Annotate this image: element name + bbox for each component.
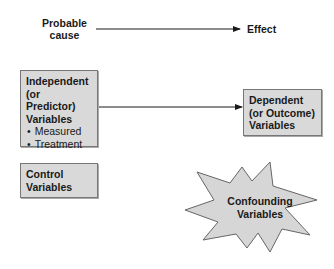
confounding-variables-label: Confounding Variables [215, 195, 305, 220]
bullet-treatment: Treatment [26, 138, 92, 151]
control-title-1: Control [26, 168, 92, 181]
control-title-2: Variables [26, 181, 92, 194]
independent-variables-box: Independent (or Predictor) Variables Mea… [20, 70, 98, 147]
probable-cause-label: Probable cause [42, 17, 87, 41]
dependent-variables-box: Dependent (or Outcome) Variables [243, 89, 322, 136]
dependent-title-2: (or Outcome) [249, 107, 316, 120]
confounding-title-1: Confounding [215, 195, 305, 208]
cause-line-1: Probable [42, 17, 87, 29]
bullet-measured: Measured [26, 125, 92, 138]
control-variables-box: Control Variables [20, 163, 98, 198]
confounding-title-2: Variables [215, 208, 305, 221]
cause-line-2: cause [42, 29, 87, 41]
dependent-title-3: Variables [249, 119, 316, 132]
independent-title-2: (or Predictor) [26, 88, 92, 113]
effect-label: Effect [247, 23, 276, 35]
dependent-title-1: Dependent [249, 94, 316, 107]
independent-title-1: Independent [26, 75, 92, 88]
independent-title-3: Variables [26, 113, 92, 126]
independent-bullet-list: Measured Treatment [26, 125, 92, 150]
